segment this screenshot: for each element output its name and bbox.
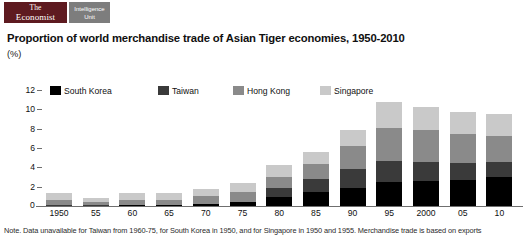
footnote: Note. Data unavailable for Taiwan from 1…: [4, 226, 527, 235]
x-axis-line: [36, 206, 523, 207]
y-axis-tick-12: 12: [25, 85, 42, 95]
x-axis-tick-label-60: 60: [112, 208, 152, 218]
y-axis-tick-label: 4: [30, 162, 35, 172]
eiu-logo: Intelligence Unit: [69, 2, 110, 23]
y-axis-tick-label: 2: [30, 182, 35, 192]
bar-segment-taiwan: [376, 161, 402, 182]
x-axis-tick-label-95: 95: [369, 208, 409, 218]
y-axis-tick-2: 2: [30, 182, 42, 192]
bar-segment-singapore: [156, 193, 182, 200]
bar-segment-singapore: [450, 112, 476, 134]
bar-segment-singapore: [193, 189, 219, 197]
bar-segment-south-korea: [340, 188, 366, 206]
bar-segment-taiwan: [486, 162, 512, 177]
bar-segment-south-korea: [303, 192, 329, 206]
bar-70[interactable]: [193, 189, 219, 206]
bar-segment-taiwan: [303, 179, 329, 193]
bar-segment-hong-kong: [266, 177, 292, 188]
bar-segment-hong-kong: [303, 164, 329, 179]
bar-segment-taiwan: [340, 169, 366, 187]
bar-segment-hong-kong: [376, 128, 402, 161]
bar-segment-south-korea: [193, 204, 219, 206]
bar-segment-taiwan: [46, 205, 72, 206]
x-axis-tick-label-80: 80: [259, 208, 299, 218]
bar-segment-singapore: [266, 165, 292, 177]
eiu-logo-line2: Unit: [69, 13, 110, 21]
x-axis-tick-label-10: 10: [479, 208, 519, 218]
y-axis-tick-label: 12: [25, 85, 35, 95]
economist-logo-line2: Economist: [4, 13, 67, 23]
bar-65[interactable]: [156, 193, 182, 206]
bar-10[interactable]: [486, 114, 512, 206]
bar-55[interactable]: [83, 198, 109, 206]
bar-segment-south-korea: [413, 181, 439, 206]
x-axis-tick-label-75: 75: [223, 208, 263, 218]
bar-75[interactable]: [230, 183, 256, 206]
bar-05[interactable]: [450, 112, 476, 206]
x-axis-tick-label-55: 55: [76, 208, 116, 218]
bar-segment-taiwan: [413, 162, 439, 181]
bar-plot-area: [42, 90, 523, 206]
x-axis-labels: 195055606570758085909520000510: [42, 208, 523, 220]
y-axis-tick-6: 6: [30, 143, 42, 153]
bar-segment-hong-kong: [193, 196, 219, 204]
bar-segment-hong-kong: [486, 136, 512, 161]
bar-2000[interactable]: [413, 107, 439, 206]
bar-segment-hong-kong: [450, 134, 476, 163]
bar-segment-hong-kong: [230, 192, 256, 202]
x-axis-tick-label-1950: 1950: [39, 208, 79, 218]
bar-1950[interactable]: [46, 193, 72, 207]
x-axis-tick-label-85: 85: [296, 208, 336, 218]
x-axis-tick-label-2000: 2000: [406, 208, 446, 218]
y-axis-tick-8: 8: [30, 124, 42, 134]
y-axis-tick-label: 6: [30, 143, 35, 153]
bar-segment-singapore: [303, 152, 329, 165]
bar-segment-hong-kong: [413, 130, 439, 162]
masthead: The Economist Intelligence Unit: [0, 0, 527, 25]
y-axis-tick-label: 8: [30, 124, 35, 134]
bar-segment-singapore: [230, 183, 256, 193]
y-axis-tick-label: 10: [25, 104, 35, 114]
bar-80[interactable]: [266, 165, 292, 206]
bar-segment-singapore: [46, 193, 72, 201]
bar-segment-singapore: [119, 193, 145, 200]
bar-60[interactable]: [119, 193, 145, 206]
page-title: Proportion of world merchandise trade of…: [7, 32, 405, 44]
bar-segment-south-korea: [119, 205, 145, 206]
economist-logo: The Economist: [4, 2, 67, 23]
bar-90[interactable]: [340, 130, 366, 206]
bar-segment-taiwan: [83, 205, 109, 206]
bar-segment-south-korea: [486, 177, 512, 206]
y-axis-zero-label: 0: [30, 200, 35, 210]
x-axis-tick-label-05: 05: [443, 208, 483, 218]
x-axis-tick-label-65: 65: [149, 208, 189, 218]
x-axis-tick-label-90: 90: [333, 208, 373, 218]
y-axis: 24681012: [0, 90, 42, 206]
bar-segment-south-korea: [230, 202, 256, 206]
x-axis-tick-label-70: 70: [186, 208, 226, 218]
y-axis-tick-4: 4: [30, 162, 42, 172]
bar-segment-hong-kong: [340, 146, 366, 169]
bar-segment-south-korea: [376, 182, 402, 206]
eiu-logo-line1: Intelligence: [69, 5, 110, 13]
bar-segment-taiwan: [266, 188, 292, 198]
bar-segment-south-korea: [450, 180, 476, 206]
bar-segment-singapore: [376, 102, 402, 128]
unit-label: (%): [7, 49, 21, 59]
y-axis-tick-10: 10: [25, 104, 42, 114]
bar-95[interactable]: [376, 102, 402, 206]
bar-segment-south-korea: [266, 197, 292, 206]
bar-segment-south-korea: [156, 205, 182, 206]
bar-segment-singapore: [340, 130, 366, 146]
chart-page: The Economist Intelligence Unit Proporti…: [0, 0, 527, 237]
bar-segment-taiwan: [450, 163, 476, 179]
bar-segment-singapore: [413, 107, 439, 129]
bar-85[interactable]: [303, 152, 329, 206]
bar-segment-singapore: [486, 114, 512, 136]
